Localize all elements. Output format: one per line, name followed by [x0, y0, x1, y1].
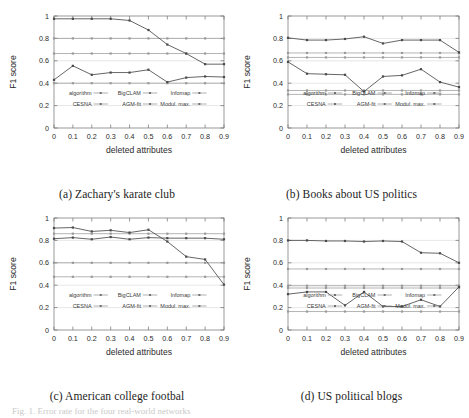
plot-area-b: 00.20.40.60.8100.10.20.30.40.50.60.70.80… — [234, 2, 469, 178]
svg-text:0.9: 0.9 — [454, 334, 464, 343]
legend-label-agmfit: AGM-fit — [122, 101, 141, 107]
svg-text:0.1: 0.1 — [68, 334, 78, 343]
legend-label-bigclam: BigCLAM — [352, 292, 376, 298]
legend-label-algorithm: algorithm — [303, 292, 326, 298]
svg-text:0.1: 0.1 — [68, 132, 78, 141]
chart-panel-a: 00.20.40.60.8100.10.20.30.40.50.60.70.80… — [0, 0, 234, 202]
svg-text:0.3: 0.3 — [340, 132, 350, 141]
svg-text:deleted attributes: deleted attributes — [341, 347, 407, 357]
plot-area-d: 00.20.40.60.8100.10.20.30.40.50.60.70.80… — [234, 204, 469, 380]
chart-panel-c: 00.20.40.60.8100.10.20.30.40.50.60.70.80… — [0, 202, 234, 404]
svg-text:0.2: 0.2 — [273, 101, 283, 110]
legend-label-modulmax: Modul. max. — [395, 101, 425, 107]
legend-label-algorithm: algorithm — [69, 292, 92, 298]
svg-text:0.2: 0.2 — [87, 334, 97, 343]
subcaption-d: (d) US political blogs — [234, 390, 469, 402]
legend-label-bigclam: BigCLAM — [118, 90, 142, 96]
legend-label-modulmax: Modul. max. — [395, 303, 425, 309]
svg-text:0.5: 0.5 — [143, 132, 153, 141]
svg-text:0.2: 0.2 — [273, 303, 283, 312]
figure-panel-grid: 00.20.40.60.8100.10.20.30.40.50.60.70.80… — [0, 0, 469, 404]
svg-text:0.8: 0.8 — [200, 132, 210, 141]
svg-text:0: 0 — [279, 326, 283, 335]
legend-label-cesna: CESNA — [73, 101, 92, 107]
legend-label-cesna: CESNA — [73, 303, 92, 309]
svg-text:0.4: 0.4 — [359, 334, 369, 343]
chart-svg-c: 00.20.40.60.8100.10.20.30.40.50.60.70.80… — [0, 204, 234, 380]
svg-text:0.2: 0.2 — [87, 132, 97, 141]
svg-text:0.6: 0.6 — [397, 132, 407, 141]
svg-text:0.6: 0.6 — [273, 56, 283, 65]
svg-text:0.8: 0.8 — [435, 334, 445, 343]
svg-text:0.5: 0.5 — [378, 132, 388, 141]
svg-text:0.2: 0.2 — [321, 132, 331, 141]
svg-text:0.8: 0.8 — [273, 34, 283, 43]
svg-text:0.4: 0.4 — [39, 281, 49, 290]
legend-label-bigclam: BigCLAM — [118, 292, 142, 298]
svg-text:0.8: 0.8 — [200, 334, 210, 343]
svg-text:deleted attributes: deleted attributes — [106, 145, 172, 155]
legend-label-infomap: Infomap — [405, 90, 425, 96]
plot-area-c: 00.20.40.60.8100.10.20.30.40.50.60.70.80… — [0, 204, 234, 380]
svg-text:deleted attributes: deleted attributes — [341, 145, 407, 155]
svg-text:0.8: 0.8 — [435, 132, 445, 141]
svg-text:0.4: 0.4 — [125, 334, 135, 343]
svg-text:deleted attributes: deleted attributes — [106, 347, 172, 357]
svg-text:0: 0 — [279, 124, 283, 133]
svg-text:0.8: 0.8 — [39, 236, 49, 245]
svg-text:0.1: 0.1 — [302, 132, 312, 141]
svg-text:0.7: 0.7 — [416, 334, 426, 343]
legend-label-modulmax: Modul. max. — [160, 303, 190, 309]
svg-text:F1 score: F1 score — [242, 257, 252, 291]
svg-text:0: 0 — [52, 334, 56, 343]
svg-text:0.6: 0.6 — [273, 258, 283, 267]
legend-label-bigclam: BigCLAM — [352, 90, 376, 96]
legend-label-infomap: Infomap — [170, 292, 190, 298]
svg-text:F1 score: F1 score — [8, 55, 18, 89]
chart-panel-d: 00.20.40.60.8100.10.20.30.40.50.60.70.80… — [234, 202, 469, 404]
chart-svg-b: 00.20.40.60.8100.10.20.30.40.50.60.70.80… — [234, 2, 469, 178]
svg-text:0.3: 0.3 — [340, 334, 350, 343]
svg-text:0.4: 0.4 — [125, 132, 135, 141]
legend-label-algorithm: algorithm — [303, 90, 326, 96]
svg-text:0: 0 — [45, 326, 49, 335]
figure-caption: Fig. 1. Error rate for the four real-wor… — [12, 406, 462, 417]
svg-text:0: 0 — [286, 132, 290, 141]
svg-text:0.5: 0.5 — [143, 334, 153, 343]
svg-text:0.2: 0.2 — [39, 303, 49, 312]
svg-text:1: 1 — [279, 12, 283, 21]
svg-text:0: 0 — [286, 334, 290, 343]
svg-text:0.3: 0.3 — [106, 132, 116, 141]
legend-label-cesna: CESNA — [307, 303, 326, 309]
legend-label-algorithm: algorithm — [69, 90, 92, 96]
svg-text:0.9: 0.9 — [219, 334, 229, 343]
chart-svg-d: 00.20.40.60.8100.10.20.30.40.50.60.70.80… — [234, 204, 469, 380]
svg-text:0.4: 0.4 — [273, 281, 283, 290]
svg-text:0.8: 0.8 — [273, 236, 283, 245]
svg-text:1: 1 — [279, 214, 283, 223]
svg-text:0.7: 0.7 — [181, 334, 191, 343]
svg-text:0.7: 0.7 — [181, 132, 191, 141]
svg-text:0.2: 0.2 — [321, 334, 331, 343]
svg-text:0.6: 0.6 — [39, 56, 49, 65]
svg-text:0.7: 0.7 — [416, 132, 426, 141]
svg-text:0.5: 0.5 — [378, 334, 388, 343]
legend-label-agmfit: AGM-fit — [357, 101, 376, 107]
legend-label-modulmax: Modul. max. — [160, 101, 190, 107]
svg-text:0.4: 0.4 — [359, 132, 369, 141]
svg-text:1: 1 — [45, 12, 49, 21]
subcaption-b: (b) Books about US politics — [234, 188, 469, 200]
svg-text:0.4: 0.4 — [39, 79, 49, 88]
legend-label-cesna: CESNA — [307, 101, 326, 107]
plot-area-a: 00.20.40.60.8100.10.20.30.40.50.60.70.80… — [0, 2, 234, 178]
subcaption-c: (c) American college footbal — [0, 390, 234, 402]
chart-svg-a: 00.20.40.60.8100.10.20.30.40.50.60.70.80… — [0, 2, 234, 178]
svg-text:0.8: 0.8 — [39, 34, 49, 43]
svg-text:F1 score: F1 score — [8, 257, 18, 291]
legend-label-agmfit: AGM-fit — [122, 303, 141, 309]
svg-text:0.9: 0.9 — [454, 132, 464, 141]
svg-text:0: 0 — [52, 132, 56, 141]
subcaption-a: (a) Zachary's karate club — [0, 188, 234, 200]
svg-text:0.9: 0.9 — [219, 132, 229, 141]
svg-text:0.4: 0.4 — [273, 79, 283, 88]
